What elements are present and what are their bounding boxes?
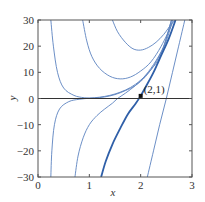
x-tick-label: 0 — [35, 179, 41, 191]
x-tick-label: 2 — [138, 179, 144, 191]
point-marker — [139, 94, 143, 98]
y-tick-label: 30 — [23, 14, 35, 26]
x-axis-title: x — [110, 186, 116, 198]
x-axis: 0123 — [35, 20, 195, 191]
solution-curve-2 — [83, 20, 173, 79]
y-axis-title: y — [6, 95, 18, 101]
point-label: (2,1) — [144, 83, 165, 96]
y-tick-label: −20 — [17, 145, 35, 157]
y-tick-label: 0 — [29, 93, 35, 105]
y-tick-label: −10 — [17, 119, 35, 131]
x-tick-label: 3 — [189, 179, 195, 191]
y-tick-label: 20 — [23, 40, 35, 52]
y-tick-label: −30 — [17, 171, 35, 183]
chart-canvas: 3020100−10−20−30 0123 x y (2,1) — [0, 0, 205, 202]
y-tick-label: 10 — [23, 66, 35, 78]
x-tick-label: 1 — [87, 179, 93, 191]
annotations: (2,1) — [139, 83, 165, 98]
